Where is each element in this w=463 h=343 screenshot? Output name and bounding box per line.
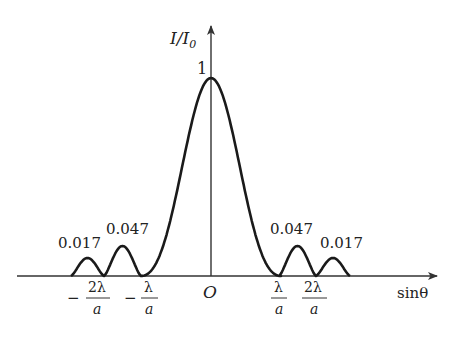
tick-label-2lambda-over-a: 2λ a	[302, 279, 327, 317]
svg-text:2λ: 2λ	[88, 279, 106, 295]
svg-text:2λ: 2λ	[304, 279, 322, 295]
svg-text:a: a	[275, 301, 283, 317]
side-peak-label-right-outer: 0.017	[320, 234, 363, 252]
peak-label: 1	[197, 59, 207, 78]
diffraction-diagram: I/I0 1 0.017 0.047 0.047 0.017 O sinθ − …	[0, 0, 463, 343]
tick-label-lambda-over-a: λ a	[271, 279, 287, 317]
y-axis-label: I/I0	[169, 28, 196, 51]
svg-text:a: a	[93, 301, 101, 317]
side-peak-label-left-inner: 0.047	[106, 220, 149, 238]
svg-text:−: −	[67, 289, 80, 307]
svg-text:λ: λ	[274, 279, 283, 295]
x-axis-label: sinθ	[397, 284, 428, 302]
tick-label-minus-lambda-over-a: − λ a	[124, 279, 158, 317]
svg-text:a: a	[145, 301, 153, 317]
tick-label-minus-2lambda-over-a: − 2λ a	[67, 279, 110, 317]
side-peak-label-right-inner: 0.047	[270, 220, 313, 238]
svg-text:−: −	[124, 289, 137, 307]
origin-label: O	[203, 282, 217, 302]
svg-text:λ: λ	[144, 279, 153, 295]
side-peak-label-left-outer: 0.017	[58, 234, 101, 252]
svg-text:a: a	[310, 301, 318, 317]
diagram-canvas: I/I0 1 0.017 0.047 0.047 0.017 O sinθ − …	[0, 0, 463, 343]
